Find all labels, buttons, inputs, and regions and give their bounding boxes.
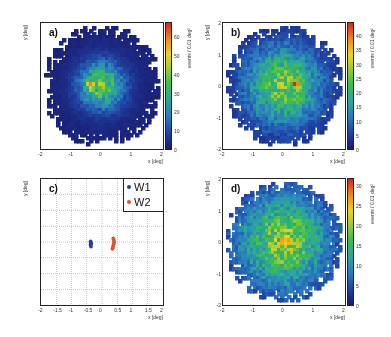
y-tick-label: -1 (217, 271, 221, 277)
heatmap-d (223, 179, 345, 305)
colorbar-tick-label: 25 (356, 203, 362, 209)
y-tick-label: 2 (218, 176, 221, 182)
y-axis-label-d: y [deg] (204, 181, 210, 196)
panel-label-d: d) (231, 183, 240, 194)
colorbar-title-d: events / 0.01 deg² (369, 184, 375, 224)
x-tick-label: 0 (281, 307, 284, 313)
colorbar-tick-label: 5 (356, 283, 359, 289)
y-tick-label: -2 (217, 302, 221, 308)
colorbar-tick-label: 20 (356, 223, 362, 229)
colorbar-tick-label: 30 (356, 183, 362, 189)
x-tick-label: 2 (342, 307, 345, 313)
x-tick-label: -1 (251, 307, 255, 313)
x-tick-label: 1 (312, 307, 315, 313)
colorbar-tick-label: 15 (356, 243, 362, 249)
y-tick-label: 0 (218, 239, 221, 245)
colorbar-tick-label: 10 (356, 263, 362, 269)
colorbar-tick-label: 0 (356, 303, 359, 309)
panel-d: d) events / 0.01 deg² 051015202530 -2-10… (0, 0, 391, 337)
x-axis-label-d: x [deg] (330, 314, 345, 320)
y-tick-label: 1 (218, 208, 221, 214)
plot-area-d: d) (222, 178, 346, 306)
colorbar-d (347, 178, 354, 306)
